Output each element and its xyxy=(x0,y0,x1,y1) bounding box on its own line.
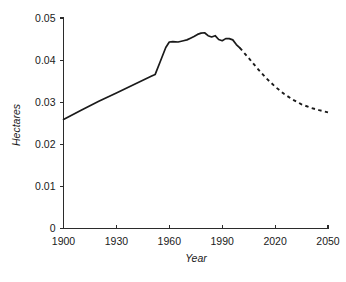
x-axis-title: Year xyxy=(185,252,207,264)
series-line-historical xyxy=(64,33,240,120)
y-tick-label: 0.02 xyxy=(35,138,56,150)
x-axis: 190019301960199020202050 xyxy=(52,225,340,247)
y-tick-label: 0.03 xyxy=(35,96,56,108)
y-tick-label: 0 xyxy=(50,222,56,234)
y-tick-labels: 00.010.020.030.040.05 xyxy=(35,12,56,235)
x-tick-labels: 190019301960199020202050 xyxy=(52,235,340,247)
y-tick-label: 0.04 xyxy=(35,54,56,66)
data-series-group xyxy=(64,33,329,120)
y-tick-label: 0.01 xyxy=(35,180,56,192)
y-axis: 00.010.020.030.040.05 xyxy=(35,12,63,235)
chart-figure: 00.010.020.030.040.05 190019301960199020… xyxy=(0,0,346,282)
series-line-projection xyxy=(240,48,328,112)
x-tick-label: 1990 xyxy=(211,235,235,247)
chart-canvas: 00.010.020.030.040.05 190019301960199020… xyxy=(0,0,346,282)
x-tick-marks xyxy=(64,225,329,229)
x-tick-label: 2020 xyxy=(263,235,287,247)
x-tick-label: 1900 xyxy=(52,235,76,247)
x-tick-label: 2050 xyxy=(316,235,340,247)
y-tick-label: 0.05 xyxy=(35,12,56,24)
x-tick-label: 1960 xyxy=(158,235,182,247)
y-axis-title: Hectares xyxy=(10,103,22,146)
x-tick-label: 1930 xyxy=(105,235,129,247)
y-tick-marks xyxy=(60,18,64,229)
